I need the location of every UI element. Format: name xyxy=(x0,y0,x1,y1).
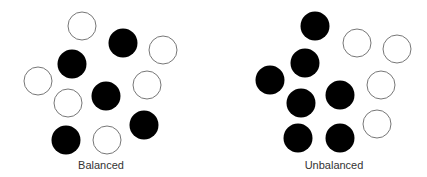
filled-circle xyxy=(301,12,330,41)
unbalanced-group xyxy=(256,12,412,153)
open-circle xyxy=(363,110,391,138)
filled-circle xyxy=(109,29,138,58)
open-circle xyxy=(54,89,82,117)
filled-circle xyxy=(284,124,313,153)
filled-circle xyxy=(326,124,355,153)
unbalanced-caption: Unbalanced xyxy=(305,159,364,171)
filled-circle xyxy=(291,49,320,78)
open-circle xyxy=(343,29,371,57)
open-circle xyxy=(367,71,395,99)
filled-circle xyxy=(130,111,159,140)
filled-circle xyxy=(52,126,81,155)
filled-circle xyxy=(92,82,121,111)
open-circle xyxy=(93,126,121,154)
open-circle xyxy=(24,67,52,95)
open-circle xyxy=(68,12,96,40)
balanced-group xyxy=(24,12,177,155)
filled-circle xyxy=(58,50,87,79)
balance-diagram: Balanced Unbalanced xyxy=(0,0,427,177)
open-circle xyxy=(383,35,411,63)
filled-circle xyxy=(326,81,355,110)
filled-circle xyxy=(287,89,316,118)
balanced-caption: Balanced xyxy=(78,159,124,171)
open-circle xyxy=(133,71,161,99)
filled-circle xyxy=(256,66,285,95)
open-circle xyxy=(149,36,177,64)
